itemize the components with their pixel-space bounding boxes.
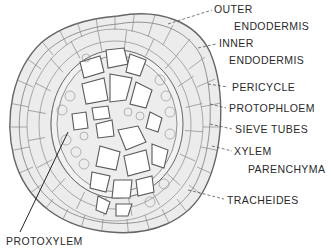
label-inner-endodermis-1: INNER <box>219 38 254 49</box>
label-xylem-parenchyma-1: XYLEM <box>234 146 272 157</box>
label-outer-endodermis-2: ENDODERMIS <box>234 21 309 32</box>
label-pericycle: PERICYCLE <box>232 82 295 93</box>
label-protophloem: PROTOPHLOEM <box>229 103 315 114</box>
label-protoxylem: PROTOXYLEM <box>6 236 83 247</box>
label-tracheides: TRACHEIDES <box>227 195 299 206</box>
label-sieve-tubes: SIEVE TUBES <box>235 124 308 135</box>
endodermis <box>51 50 183 198</box>
label-xylem-parenchyma-2: PARENCHYMA <box>248 164 325 175</box>
label-outer-endodermis-1: OUTER <box>214 4 253 15</box>
label-inner-endodermis-2: ENDODERMIS <box>229 55 304 66</box>
